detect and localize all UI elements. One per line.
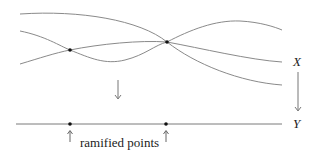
ramified-point-2 bbox=[164, 122, 168, 126]
branch-point-1 bbox=[68, 48, 72, 52]
cover-label-x: X bbox=[293, 55, 301, 68]
ramified-points-caption: ramified points bbox=[80, 136, 159, 149]
down-arrow-icon bbox=[115, 80, 121, 99]
up-arrow-icon bbox=[164, 131, 169, 143]
branch-point-2 bbox=[165, 40, 169, 44]
projection-arrow-icon bbox=[295, 72, 301, 111]
covering-diagram bbox=[0, 0, 316, 156]
up-arrow-icon bbox=[68, 131, 73, 143]
base-label-y: Y bbox=[293, 117, 300, 130]
ramified-point-1 bbox=[68, 122, 72, 126]
